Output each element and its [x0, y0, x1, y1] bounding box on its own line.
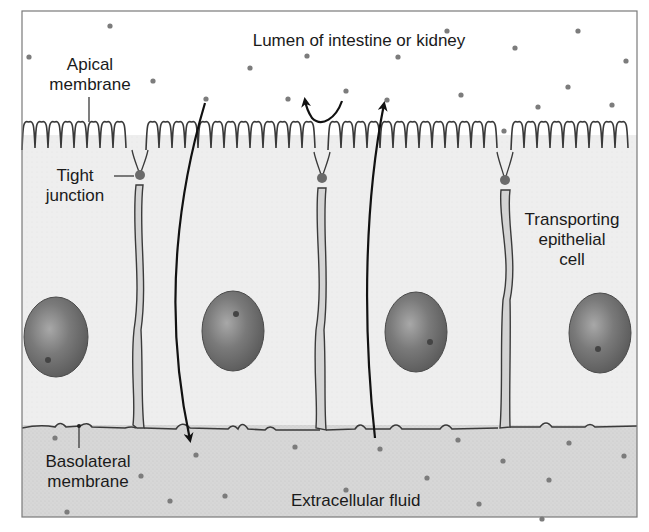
apical-membrane-label: Apical membrane [38, 55, 142, 95]
tight-junction-3 [500, 175, 510, 185]
nucleus-4 [569, 293, 631, 373]
transporting-label-line3: cell [512, 250, 632, 270]
nucleus-3 [385, 292, 447, 372]
tight-junction-1 [135, 170, 145, 180]
nucleus-2 [202, 291, 264, 371]
basolateral-membrane-label: Basolateral membrane [32, 452, 144, 492]
tight-junction-2 [317, 173, 327, 183]
extracellular-fluid-label: Extracellular fluid [291, 491, 420, 511]
apical-label-line2: membrane [38, 75, 142, 95]
apical-label-line1: Apical [38, 55, 142, 75]
lumen-label: Lumen of intestine or kidney [199, 31, 519, 51]
tight-label-line2: junction [36, 186, 114, 206]
tight-junction-label: Tight junction [36, 166, 114, 206]
transporting-label-line2: epithelial [512, 230, 632, 250]
transporting-epithelial-cell-label: Transporting epithelial cell [512, 210, 632, 270]
basolateral-label-line2: membrane [32, 472, 144, 492]
nucleus-1 [24, 297, 88, 377]
cell-layer-region [22, 135, 637, 430]
tight-label-line1: Tight [36, 166, 114, 186]
basolateral-label-line1: Basolateral [32, 452, 144, 472]
transporting-label-line1: Transporting [512, 210, 632, 230]
